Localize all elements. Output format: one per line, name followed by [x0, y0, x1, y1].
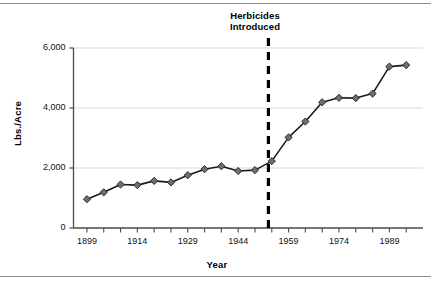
data-point-marker [83, 196, 90, 203]
y-axis-tick-label: 6,000 [22, 42, 66, 52]
x-axis-tick-label: 1974 [317, 236, 361, 246]
data-point-marker [134, 182, 141, 189]
x-axis-tick-label: 1989 [367, 236, 411, 246]
data-point-marker [369, 90, 376, 97]
data-point-marker [335, 94, 342, 101]
data-line [87, 65, 406, 199]
data-point-marker [403, 62, 410, 69]
data-point-marker [184, 172, 191, 179]
chart-figure: Herbicides Introduced Lbs./Acre Year 02,… [0, 0, 431, 281]
y-axis-tick-label: 4,000 [22, 102, 66, 112]
x-axis-tick-label: 1929 [166, 236, 210, 246]
data-point-marker [100, 189, 107, 196]
data-point-marker [218, 163, 225, 170]
data-point-marker [151, 177, 158, 184]
y-axis-tick-label: 0 [22, 222, 66, 232]
data-point-marker [352, 95, 359, 102]
data-point-marker [386, 63, 393, 70]
x-axis-tick-label: 1944 [216, 236, 260, 246]
data-point-marker [201, 166, 208, 173]
data-point-marker [117, 181, 124, 188]
x-axis-tick-label: 1959 [267, 236, 311, 246]
y-axis-tick-label: 2,000 [22, 162, 66, 172]
x-axis-tick-label: 1899 [65, 236, 109, 246]
x-axis-tick-label: 1914 [115, 236, 159, 246]
data-point-marker [167, 179, 174, 186]
